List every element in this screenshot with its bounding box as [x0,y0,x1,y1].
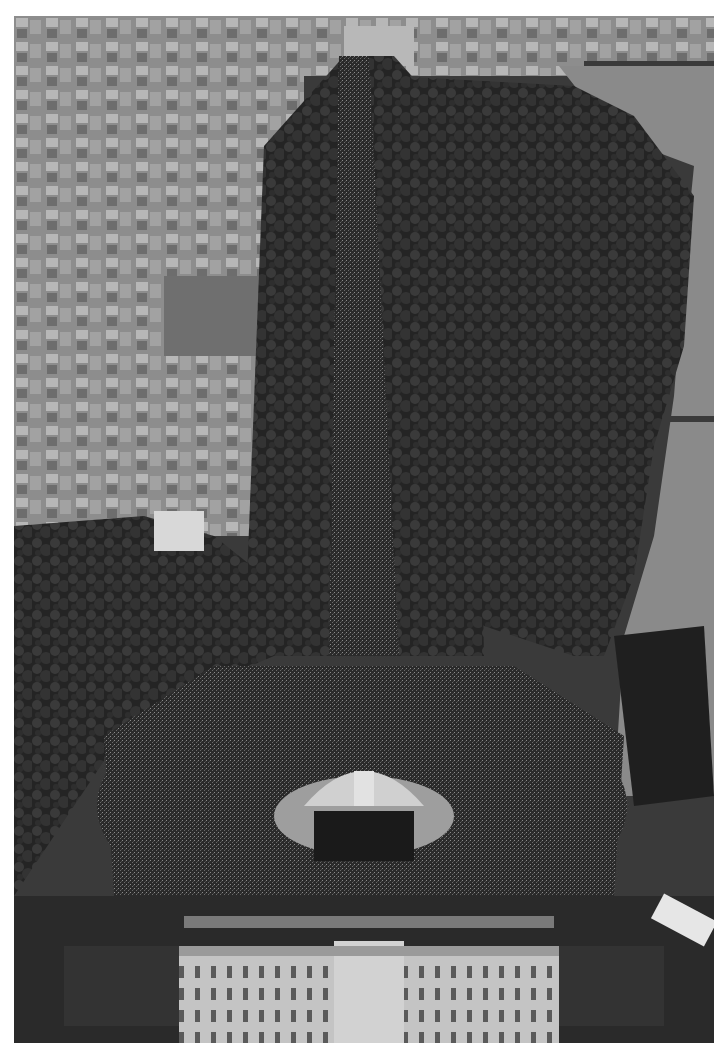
buildings-top-right [574,16,714,61]
aerial-photo-scene [14,16,714,1043]
white-tent [154,511,204,551]
aerial-photo [14,16,714,1043]
